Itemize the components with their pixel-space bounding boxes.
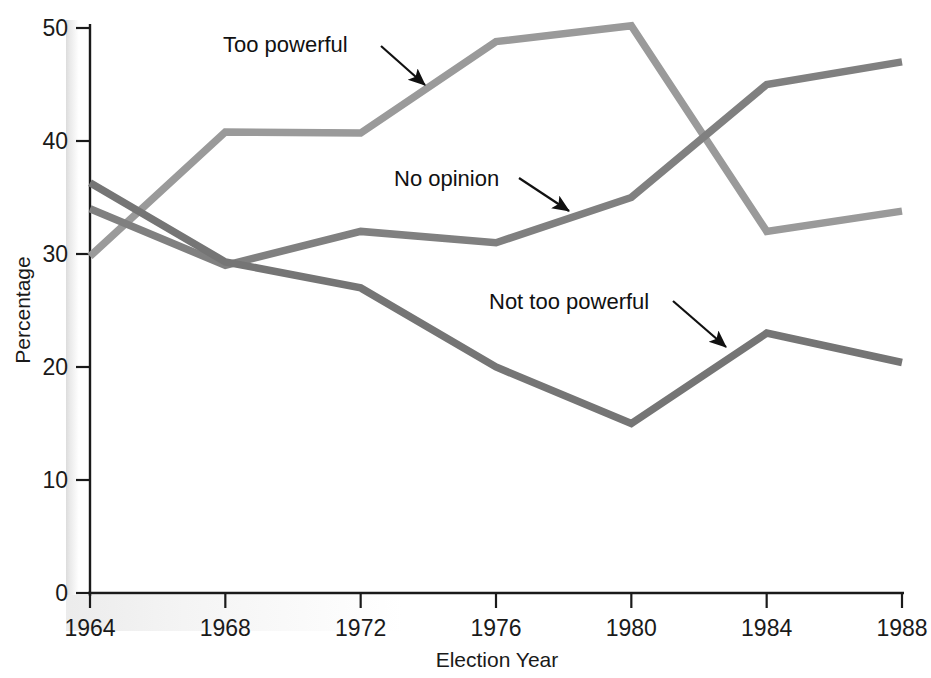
x-tick-label: 1988 <box>876 615 927 641</box>
y-tick-label: 20 <box>42 354 68 380</box>
annotation-label-too-powerful: Too powerful <box>223 32 348 57</box>
chart-container: 01020304050 1964196819721976198019841988… <box>0 0 931 678</box>
x-tick-label: 1964 <box>64 615 115 641</box>
series-line-no-opinion <box>90 62 902 265</box>
annotation-label-not-too-powerful: Not too powerful <box>489 289 649 314</box>
y-axis-title: Percentage <box>11 256 34 363</box>
annotation-arrow-no-opinion <box>519 178 569 211</box>
annotations-group: Too powerfulNo opinionNot too powerful <box>223 32 726 347</box>
plot-background-shade <box>66 20 98 595</box>
x-axis-title: Election Year <box>436 648 559 671</box>
annotation-arrow-not-too-powerful <box>673 301 726 347</box>
y-tick-label: 40 <box>42 128 68 154</box>
y-tick-label: 0 <box>55 580 68 606</box>
x-tick-label: 1972 <box>335 615 386 641</box>
series-line-too-powerful <box>90 26 902 257</box>
annotation-arrow-too-powerful <box>381 46 425 85</box>
x-tick-label: 1980 <box>606 615 657 641</box>
x-tick-label: 1984 <box>741 615 792 641</box>
y-tick-label: 30 <box>42 241 68 267</box>
data-series-group <box>90 26 902 424</box>
annotation-label-no-opinion: No opinion <box>394 166 499 191</box>
y-tick-label: 10 <box>42 467 68 493</box>
y-tick-label: 50 <box>42 15 68 41</box>
x-tick-label: 1976 <box>470 615 521 641</box>
line-chart: 01020304050 1964196819721976198019841988… <box>0 0 931 678</box>
x-tick-label: 1968 <box>200 615 251 641</box>
